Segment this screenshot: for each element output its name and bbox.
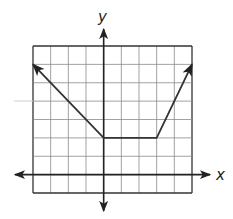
- x-axis-label: x: [215, 166, 225, 184]
- coordinate-plane: x y: [0, 0, 233, 219]
- y-axis-label: y: [97, 8, 108, 26]
- grid: [33, 46, 192, 193]
